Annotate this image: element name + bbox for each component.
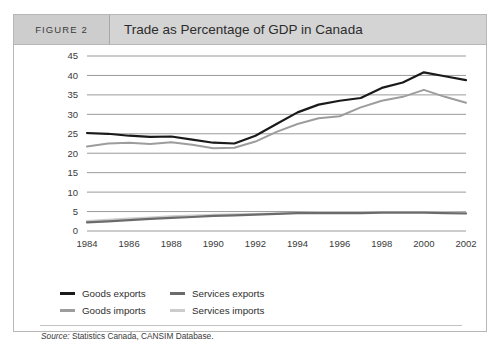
x-axis-tick-label: 2002 bbox=[455, 238, 476, 249]
figure-header: FIGURE 2 Trade as Percentage of GDP in C… bbox=[14, 15, 486, 45]
legend-label-goods-exports: Goods exports bbox=[82, 288, 146, 299]
legend-item-services-imports: Services imports bbox=[170, 305, 320, 316]
figure-title: Trade as Percentage of GDP in Canada bbox=[124, 22, 363, 37]
source-text: Statistics Canada, CANSIM Database. bbox=[70, 331, 214, 341]
legend-swatch-services-exports bbox=[170, 292, 185, 295]
source-divider bbox=[40, 325, 462, 326]
y-axis-tick-labels: 051015202530354045 bbox=[67, 50, 78, 236]
y-axis-tick-label: 15 bbox=[67, 167, 78, 178]
x-axis-tick-label: 1984 bbox=[76, 238, 97, 249]
legend-label-services-imports: Services imports bbox=[192, 305, 264, 316]
y-axis-tick-label: 0 bbox=[73, 225, 78, 236]
x-axis-tick-label: 1996 bbox=[329, 238, 350, 249]
source-label: Source: bbox=[41, 331, 70, 341]
x-axis-tick-labels: 1984198619881990199219941996199820002002 bbox=[76, 238, 476, 249]
y-axis-tick-label: 40 bbox=[67, 70, 78, 81]
x-axis-tick-label: 1992 bbox=[245, 238, 266, 249]
y-axis-tick-label: 10 bbox=[67, 187, 78, 198]
legend-label-goods-imports: Goods imports bbox=[82, 305, 146, 316]
legend-item-services-exports: Services exports bbox=[170, 288, 320, 299]
figure-number-cell: FIGURE 2 bbox=[14, 15, 110, 44]
figure-container: FIGURE 2 Trade as Percentage of GDP in C… bbox=[13, 14, 487, 332]
x-axis-tick-label: 1998 bbox=[371, 238, 392, 249]
x-axis-tick-label: 1986 bbox=[119, 238, 140, 249]
y-axis-tick-label: 25 bbox=[67, 128, 78, 139]
y-axis-tick-label: 45 bbox=[67, 50, 78, 61]
legend-swatch-services-imports bbox=[170, 309, 185, 312]
series-line-goods-imports bbox=[87, 90, 466, 148]
source-note: Source: Statistics Canada, CANSIM Databa… bbox=[41, 331, 213, 341]
legend-item-goods-exports: Goods exports bbox=[60, 288, 170, 299]
x-axis-tick-label: 1990 bbox=[203, 238, 224, 249]
figure-title-cell: Trade as Percentage of GDP in Canada bbox=[110, 15, 486, 44]
figure-number-label: FIGURE 2 bbox=[35, 24, 88, 35]
line-chart-svg: 051015202530354045 198419861988199019921… bbox=[14, 45, 488, 275]
figure-body: 051015202530354045 198419861988199019921… bbox=[14, 45, 486, 331]
x-axis-tick-label: 1988 bbox=[161, 238, 182, 249]
legend-swatch-goods-exports bbox=[60, 292, 75, 295]
chart-plot-area: 051015202530354045 198419861988199019921… bbox=[14, 45, 488, 275]
y-axis-tick-label: 35 bbox=[67, 89, 78, 100]
y-axis-tick-label: 30 bbox=[67, 109, 78, 120]
y-axis-tick-label: 20 bbox=[67, 148, 78, 159]
y-axis-tick-label: 5 bbox=[73, 206, 78, 217]
legend-label-services-exports: Services exports bbox=[192, 288, 264, 299]
x-axis-tick-label: 1994 bbox=[287, 238, 308, 249]
x-axis-tick-label: 2000 bbox=[413, 238, 434, 249]
legend-swatch-goods-imports bbox=[60, 309, 75, 312]
legend-item-goods-imports: Goods imports bbox=[60, 305, 170, 316]
chart-legend: Goods exports Services exports Goods imp… bbox=[60, 285, 350, 319]
